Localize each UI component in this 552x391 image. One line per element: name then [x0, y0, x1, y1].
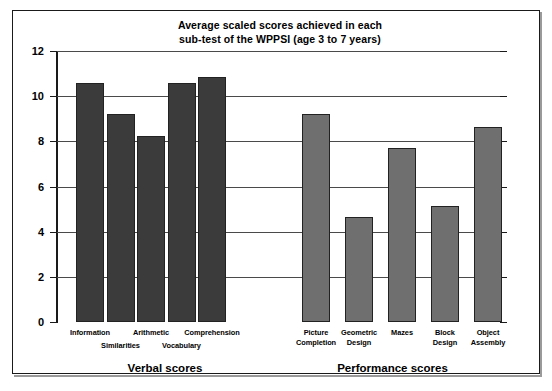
y-tick-left-0 — [50, 322, 57, 323]
x-label-similarities: Similarities — [87, 341, 155, 351]
chart-title: Average scaled scores achieved in each s… — [60, 18, 500, 46]
bar-comprehension — [198, 77, 226, 322]
plot-area — [57, 51, 500, 322]
x-label-line-1: Vocabulary — [148, 341, 216, 351]
y-tick-label-12: 12 — [16, 46, 44, 57]
bar-picture-completion — [302, 114, 330, 322]
y-tick-left-4 — [50, 232, 57, 233]
y-tick-right-0 — [500, 322, 507, 323]
bar-geometric-design — [345, 217, 373, 322]
x-label-object-assembly: ObjectAssembly — [454, 328, 522, 347]
chart-title-line-2: sub-test of the WPPSI (age 3 to 7 years) — [60, 32, 500, 46]
bar-object-assembly — [474, 127, 502, 322]
y-tick-label-8: 8 — [16, 136, 44, 147]
y-tick-left-10 — [50, 96, 57, 97]
y-tick-label-4: 4 — [16, 227, 44, 238]
x-label-comprehension: Comprehension — [178, 328, 246, 338]
x-label-line-2: Assembly — [454, 338, 522, 348]
x-label-line-1: Information — [56, 328, 124, 338]
bar-similarities — [107, 114, 135, 322]
y-tick-left-2 — [50, 277, 57, 278]
bar-block-design — [431, 206, 459, 322]
y-tick-label-10: 10 — [16, 91, 44, 102]
gridline-10 — [57, 96, 500, 97]
y-tick-left-8 — [50, 141, 57, 142]
group-label-verbal: Verbal scores — [90, 362, 240, 374]
y-tick-right-12 — [500, 51, 507, 52]
y-tick-left-12 — [50, 51, 57, 52]
y-tick-right-10 — [500, 96, 507, 97]
group-label-performance: Performance scores — [300, 362, 485, 374]
y-tick-label-2: 2 — [16, 272, 44, 283]
bar-information — [76, 83, 104, 322]
bar-mazes — [388, 148, 416, 322]
x-label-line-1: Comprehension — [178, 328, 246, 338]
x-label-arithmetic: Arithmetic — [117, 328, 185, 338]
frame-shadow-right — [540, 12, 542, 377]
x-label-line-1: Similarities — [87, 341, 155, 351]
x-label-line-1: Arithmetic — [117, 328, 185, 338]
chart-figure: Average scaled scores achieved in each s… — [0, 0, 552, 391]
frame-shadow-bottom — [14, 375, 542, 377]
x-label-line-1: Object — [454, 328, 522, 338]
x-label-information: Information — [56, 328, 124, 338]
gridline-12 — [57, 51, 500, 52]
x-label-vocabulary: Vocabulary — [148, 341, 216, 351]
chart-title-line-1: Average scaled scores achieved in each — [60, 18, 500, 32]
y-tick-label-0: 0 — [16, 317, 44, 328]
bar-arithmetic — [137, 136, 165, 322]
y-tick-left-6 — [50, 187, 57, 188]
bar-vocabulary — [168, 83, 196, 322]
y-tick-label-6: 6 — [16, 182, 44, 193]
x-label-line-2: Design — [325, 338, 393, 348]
